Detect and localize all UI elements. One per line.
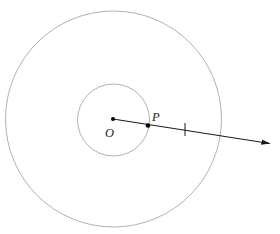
ray-OP bbox=[113, 119, 270, 144]
point-P-label: P bbox=[151, 110, 160, 124]
point-O-label: O bbox=[105, 126, 114, 140]
point-O-dot bbox=[111, 117, 115, 121]
geometry-diagram: O P bbox=[0, 0, 280, 234]
point-P-dot bbox=[146, 123, 151, 128]
geometry-canvas: O P bbox=[0, 0, 280, 234]
